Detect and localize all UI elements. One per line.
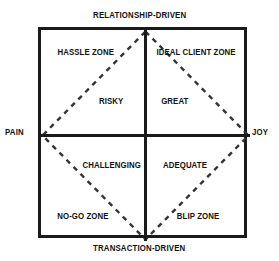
matrix-plot-area: HASSLE ZONE IDEAL CLIENT ZONE RISKY GREA…: [38, 27, 247, 238]
zone-label-hassle-zone: HASSLE ZONE: [57, 47, 114, 57]
axis-label-left: PAIN: [5, 127, 24, 137]
zone-label-ideal-client-zone: IDEAL CLIENT ZONE: [156, 47, 235, 57]
axis-label-bottom: TRANSACTION-DRIVEN: [0, 243, 279, 253]
horizontal-axis-line: [41, 134, 250, 137]
axis-label-top: RELATIONSHIP-DRIVEN: [0, 10, 279, 20]
zone-label-challenging: CHALLENGING: [83, 160, 141, 170]
axis-label-right: JOY: [252, 127, 268, 137]
client-matrix-diagram: RELATIONSHIP-DRIVEN PAIN JOY TRANSACTION…: [0, 0, 279, 261]
zone-label-no-go-zone: NO-GO ZONE: [57, 211, 108, 221]
zone-label-great: GREAT: [161, 96, 188, 106]
zone-label-risky: RISKY: [99, 96, 123, 106]
zone-label-adequate: ADEQUATE: [163, 160, 207, 170]
zone-label-blip-zone: BLIP ZONE: [177, 211, 219, 221]
